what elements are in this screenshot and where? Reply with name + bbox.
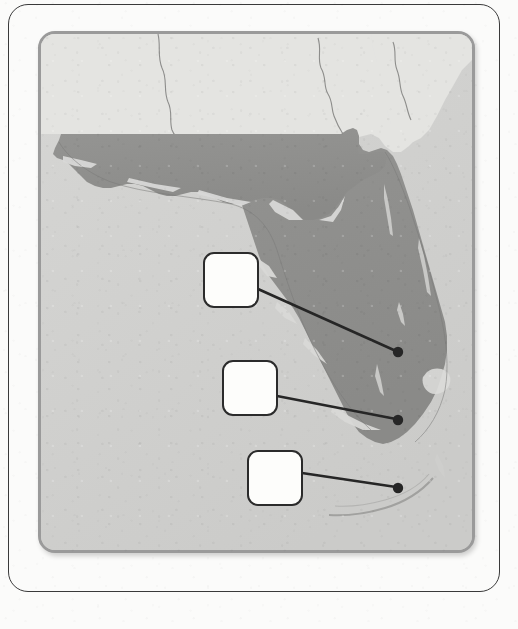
worksheet-page — [0, 0, 518, 629]
callout-box-3[interactable] — [247, 450, 303, 506]
callout-box-1[interactable] — [203, 252, 259, 308]
callout-box-2[interactable] — [222, 360, 278, 416]
